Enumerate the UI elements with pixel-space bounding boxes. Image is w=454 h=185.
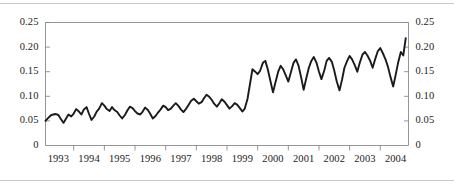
y-axis-tick-label-right: 0.10 bbox=[416, 91, 454, 102]
y-axis-tick-label-left: 0.10 bbox=[0, 91, 39, 102]
y-axis-tick-label-left: 0.25 bbox=[0, 17, 39, 28]
y-axis-tick-label-left: 0.20 bbox=[0, 42, 39, 53]
y-axis-tick-label-right: 0.20 bbox=[416, 42, 454, 53]
chart-figure: 000.050.050.100.100.150.150.200.200.250.… bbox=[0, 0, 454, 185]
y-axis-tick-label-right: 0.25 bbox=[416, 17, 454, 28]
y-axis-tick-label-right: 0.05 bbox=[416, 115, 454, 126]
y-axis-tick-label-left: 0 bbox=[0, 140, 39, 151]
y-axis-tick-label-left: 0.05 bbox=[0, 115, 39, 126]
y-axis-tick-label-left: 0.15 bbox=[0, 66, 39, 77]
chart-tick-marks bbox=[46, 23, 409, 151]
chart-axes bbox=[46, 23, 409, 146]
data-series-line bbox=[46, 38, 406, 123]
y-axis-tick-label-right: 0.15 bbox=[416, 66, 454, 77]
y-axis-tick-label-right: 0 bbox=[416, 140, 454, 151]
x-axis-tick-label: 2004 bbox=[376, 154, 416, 165]
